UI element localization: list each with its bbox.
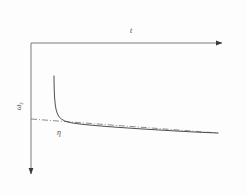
omega-z-curve — [54, 76, 218, 133]
figure-container: t ω z η — [0, 0, 247, 195]
eta-label: η — [57, 128, 61, 137]
y-axis-label-subscript: z — [18, 103, 24, 106]
figure-canvas: t ω z η — [0, 0, 247, 195]
y-axis-label: ω z — [14, 103, 24, 110]
x-axis-label: t — [130, 26, 133, 35]
